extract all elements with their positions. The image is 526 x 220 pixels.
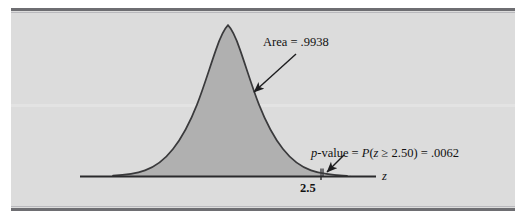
x-axis-tick-label-2-5: 2.5 xyxy=(300,182,316,195)
z-axis-label: z xyxy=(382,170,387,183)
area-annotation-label: Area = .9938 xyxy=(263,36,329,49)
pvalue-annotation-label: p-value = P(z ≥ 2.50) = .0062 xyxy=(311,147,459,160)
normal-distribution-figure: Area = .9938 p-value = P(z ≥ 2.50) = .00… xyxy=(0,0,526,220)
distribution-plot xyxy=(0,0,526,220)
area-annotation-arrow xyxy=(254,54,296,92)
